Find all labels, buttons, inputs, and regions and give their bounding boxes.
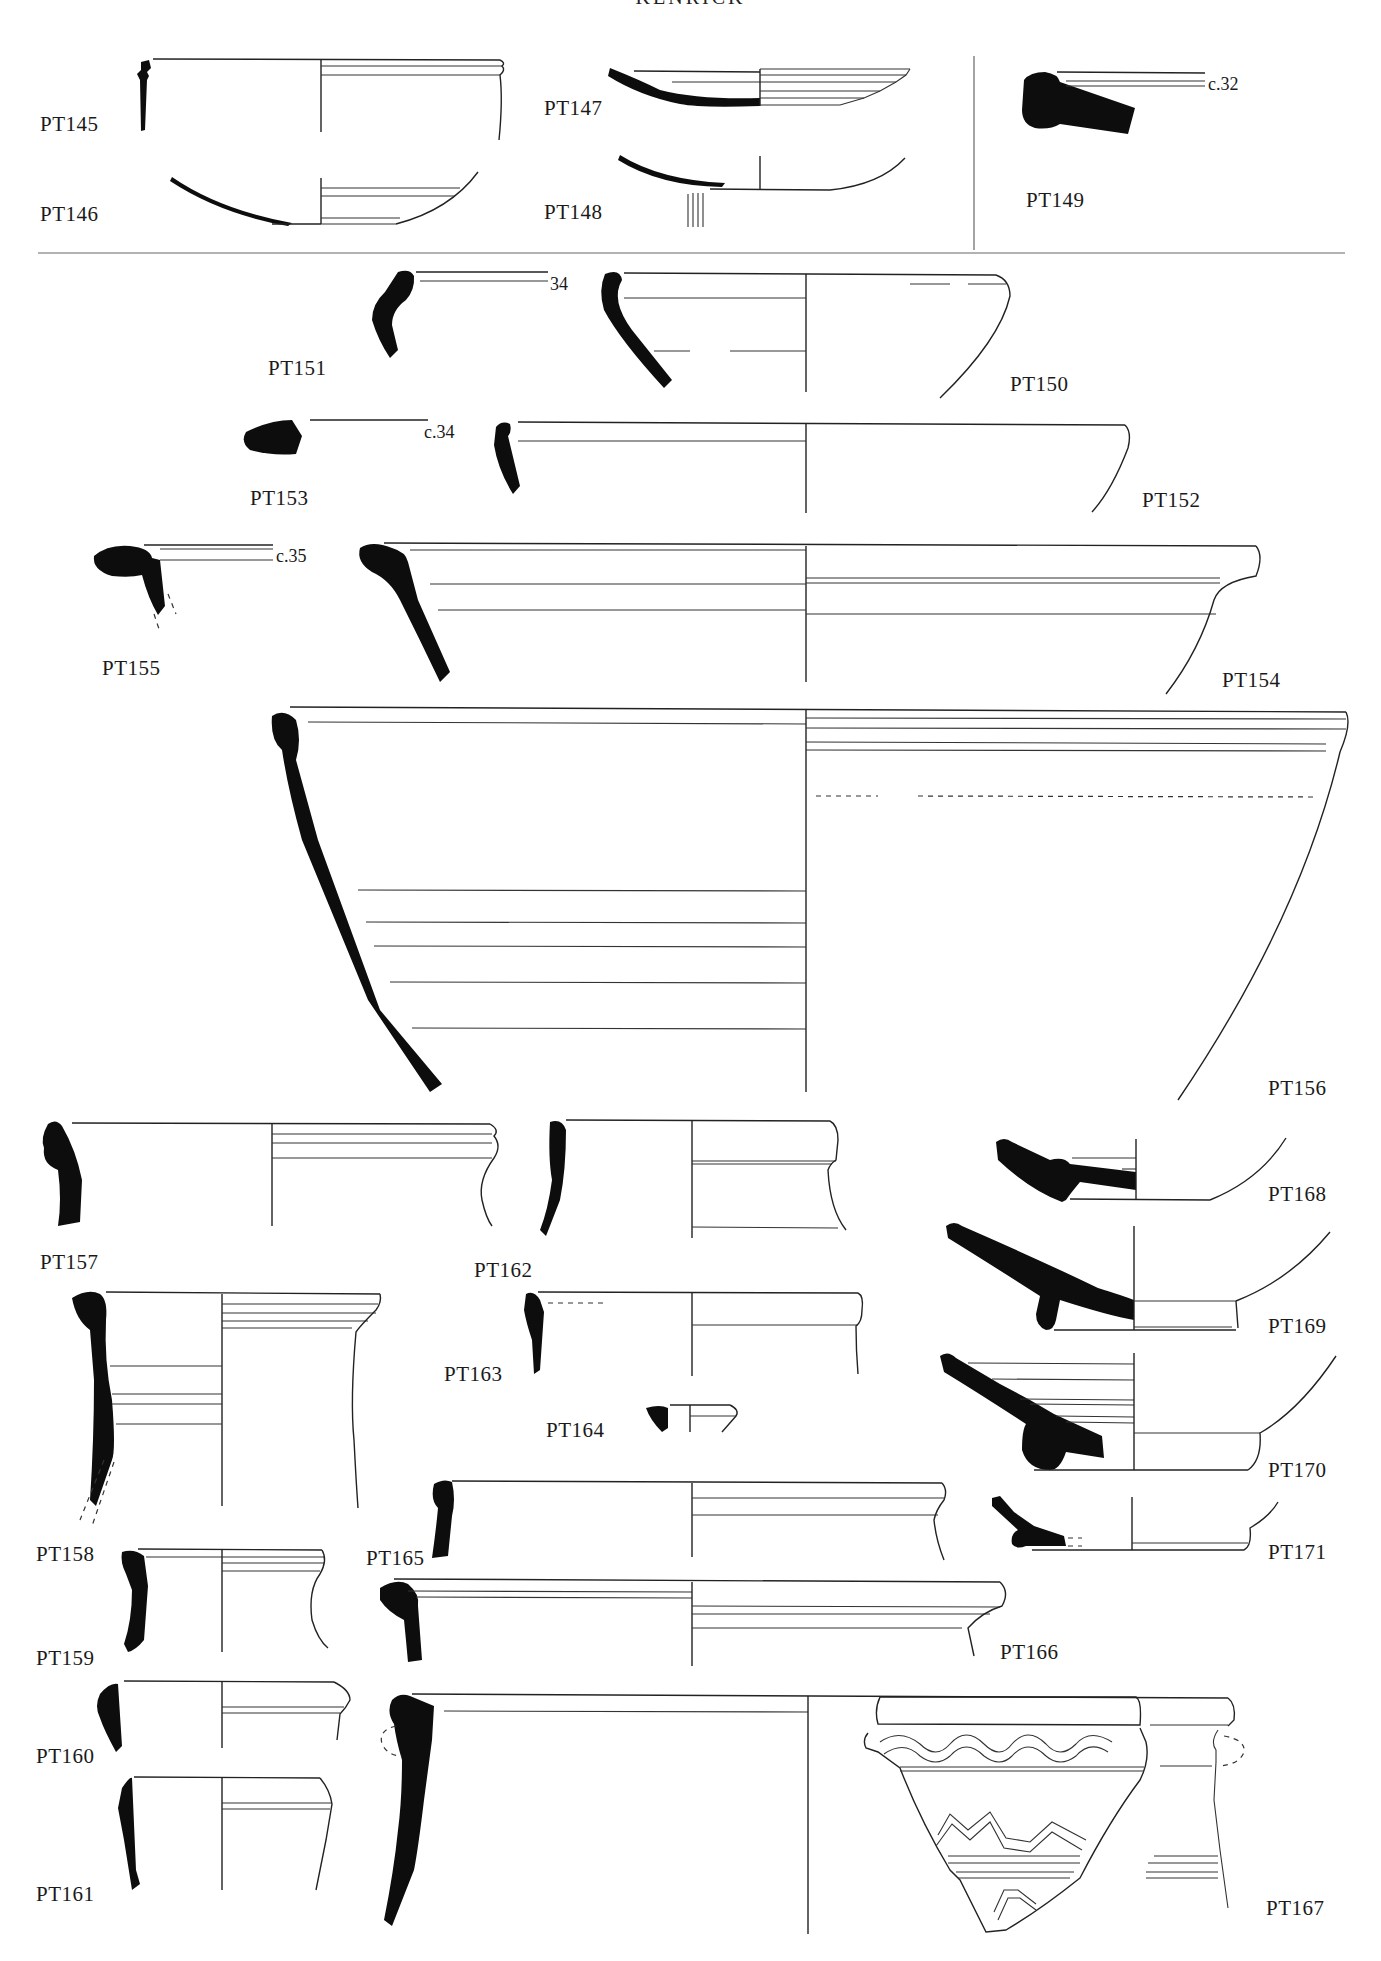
profile-pt167 (381, 1694, 1244, 1934)
profile-pt158 (72, 1292, 381, 1526)
diameter-pt153: c.34 (424, 422, 455, 443)
profile-pt170 (940, 1353, 1336, 1470)
figure-label-pt167: PT167 (1266, 1896, 1325, 1921)
figure-label-pt151: PT151 (268, 356, 327, 381)
profile-pt150 (601, 272, 1010, 398)
profile-pt156 (272, 707, 1348, 1100)
profile-pt164 (646, 1405, 737, 1432)
figure-label-pt153: PT153 (250, 486, 309, 511)
figure-label-pt171: PT171 (1268, 1540, 1327, 1565)
figure-label-pt163: PT163 (444, 1362, 503, 1387)
profile-pt147 (608, 68, 910, 107)
figure-label-pt155: PT155 (102, 656, 161, 681)
figure-label-pt148: PT148 (544, 200, 603, 225)
figure-label-pt162: PT162 (474, 1258, 533, 1283)
figure-label-pt169: PT169 (1268, 1314, 1327, 1339)
profile-pt153 (244, 420, 428, 455)
profile-pt145 (137, 59, 504, 140)
profile-pt152 (494, 422, 1129, 513)
figure-label-pt145: PT145 (40, 112, 99, 137)
figure-label-pt156: PT156 (1268, 1076, 1327, 1101)
profile-pt157 (43, 1121, 498, 1226)
figure-label-pt165: PT165 (366, 1546, 425, 1571)
profile-pt160 (97, 1681, 350, 1752)
figure-label-pt159: PT159 (36, 1646, 95, 1671)
profile-pt151 (372, 271, 548, 358)
profile-pt159 (122, 1549, 329, 1652)
profile-pt149 (1022, 72, 1205, 134)
profile-drawings (0, 0, 1381, 1961)
diameter-pt149: c.32 (1208, 74, 1239, 95)
profile-pt161 (118, 1777, 332, 1890)
figure-label-pt168: PT168 (1268, 1182, 1327, 1207)
figure-label-pt152: PT152 (1142, 488, 1201, 513)
figure-label-pt149: PT149 (1026, 188, 1085, 213)
diameter-pt155: c.35 (276, 546, 307, 567)
profile-pt155 (94, 545, 273, 632)
profile-pt168 (996, 1138, 1286, 1202)
figure-label-pt170: PT170 (1268, 1458, 1327, 1483)
figure-label-pt158: PT158 (36, 1542, 95, 1567)
profile-pt146 (170, 172, 478, 226)
figure-label-pt157: PT157 (40, 1250, 99, 1275)
profile-pt154 (359, 543, 1260, 694)
profile-pt171 (992, 1496, 1278, 1550)
figure-label-pt154: PT154 (1222, 668, 1281, 693)
diameter-pt151: 34 (550, 274, 568, 295)
figure-label-pt160: PT160 (36, 1744, 95, 1769)
pottery-plate: KENRICK (0, 0, 1381, 1961)
figure-label-pt146: PT146 (40, 202, 99, 227)
figure-label-pt161: PT161 (36, 1882, 95, 1907)
profile-pt163 (524, 1292, 863, 1376)
profile-pt148 (618, 155, 905, 227)
figure-label-pt164: PT164 (546, 1418, 605, 1443)
profile-pt166 (380, 1579, 1006, 1666)
figure-label-pt166: PT166 (1000, 1640, 1059, 1665)
profile-pt162 (540, 1120, 846, 1238)
figure-label-pt147: PT147 (544, 96, 603, 121)
profile-pt165 (432, 1480, 946, 1560)
figure-label-pt150: PT150 (1010, 372, 1069, 397)
